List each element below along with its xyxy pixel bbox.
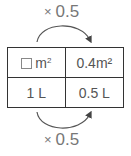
bottom-operation-label: ×0.5 — [44, 130, 79, 150]
area-cell: 0.4m² — [65, 48, 123, 78]
bottom-arrow-icon — [37, 112, 90, 128]
volume-result-cell: 0.5 L — [65, 78, 123, 108]
bottom-operation-value: 0.5 — [56, 130, 80, 149]
proportion-table: m2 0.4m² 1 L 0.5 L — [7, 47, 124, 108]
unknown-area-cell: m2 — [8, 48, 66, 78]
multiply-icon: × — [44, 132, 52, 147]
table-row: m2 0.4m² — [8, 48, 124, 78]
top-arrow-icon — [37, 26, 90, 42]
blank-box-icon — [21, 58, 32, 69]
volume-cell: 1 L — [8, 78, 66, 108]
table-row: 1 L 0.5 L — [8, 78, 124, 108]
